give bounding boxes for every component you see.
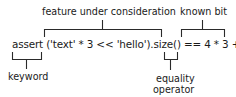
known-bit-label: known bit xyxy=(180,6,227,17)
keyword-bracket xyxy=(13,52,42,69)
keyword-label: keyword xyxy=(8,71,48,82)
feature-bracket xyxy=(45,20,162,37)
known-bit-bracket xyxy=(182,20,225,37)
equality-bracket xyxy=(165,52,178,70)
equality-label-line1: equality xyxy=(156,73,188,84)
code-line: assert ('text' * 3 << 'hello').size() ==… xyxy=(12,38,236,50)
equality-label-line2: operator xyxy=(153,84,191,95)
feature-label: feature under consideration xyxy=(42,6,176,17)
